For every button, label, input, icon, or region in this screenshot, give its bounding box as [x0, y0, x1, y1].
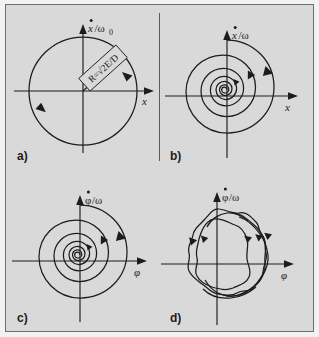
panel-c-caption: c)	[17, 312, 28, 324]
figure-frame: R=√2E/D x /ω 0 x a)	[5, 4, 314, 332]
svg-text:/ω: /ω	[229, 191, 239, 203]
panel-a-x-label: x	[141, 95, 147, 107]
svg-text:x: x	[231, 29, 237, 41]
svg-text:φ: φ	[222, 191, 228, 203]
panel-a-caption: a)	[17, 150, 28, 162]
panel-c-x-label: φ	[134, 266, 140, 278]
panel-a-y-label: x /ω 0	[87, 19, 113, 37]
svg-text:/ω: /ω	[239, 29, 249, 41]
svg-text:/ω: /ω	[95, 22, 105, 34]
panel-b-caption: b)	[170, 150, 181, 162]
svg-text:φ: φ	[85, 194, 91, 206]
svg-text:x: x	[87, 22, 93, 34]
panel-b-x-label: x	[284, 101, 290, 113]
panel-b-y-label: x /ω	[231, 26, 249, 41]
panel-a: R=√2E/D x /ω 0 x a)	[6, 5, 160, 168]
panel-d-caption: d)	[170, 312, 181, 324]
panel-d-y-label: φ /ω	[222, 188, 239, 204]
panel-d: φ /ω φ d)	[159, 167, 313, 330]
panel-d-x-label: φ	[281, 269, 287, 281]
panel-c: φ /ω φ c)	[6, 167, 160, 330]
svg-text:0: 0	[109, 28, 113, 37]
svg-text:/ω: /ω	[92, 194, 102, 206]
panel-b: x /ω x b)	[159, 5, 313, 168]
panel-c-y-label: φ /ω	[85, 191, 102, 207]
